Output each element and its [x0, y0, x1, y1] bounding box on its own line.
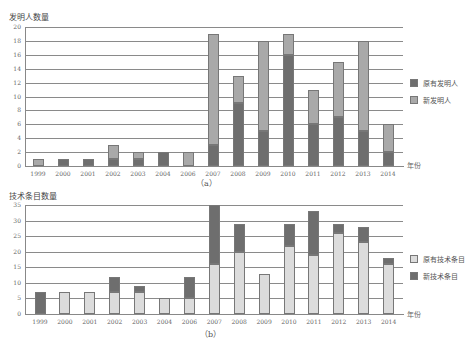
bar-segment — [383, 258, 394, 264]
x-tick-label: 2010 — [277, 318, 301, 325]
bar-2014 — [383, 205, 394, 314]
bar-segment — [184, 277, 195, 299]
bar-segment — [209, 264, 220, 314]
legend-item: 新技术条目 — [410, 271, 458, 281]
x-tick-label: 2011 — [302, 318, 326, 325]
bar-segment — [284, 246, 295, 315]
bar-2013 — [358, 205, 369, 314]
y-tick-label: 5 — [5, 294, 21, 301]
chart-b-caption: （b） — [200, 328, 221, 339]
bar-2002 — [109, 205, 120, 314]
bar-2009 — [259, 205, 270, 314]
bar-segment — [184, 298, 195, 314]
y-tick-label: 0 — [5, 310, 21, 317]
y-tick-label: 20 — [5, 248, 21, 255]
y-tick-label: 15 — [5, 263, 21, 270]
x-tick-label: 2002 — [103, 318, 127, 325]
legend-swatch-icon — [410, 272, 418, 280]
x-tick-label: 2001 — [78, 318, 102, 325]
bar-segment — [358, 227, 369, 243]
bar-2006 — [184, 205, 195, 314]
bar-2004 — [159, 205, 170, 314]
x-tick-label: 2003 — [128, 318, 152, 325]
x-tick-label: 2014 — [377, 318, 401, 325]
y-tick-label: 35 — [5, 201, 21, 208]
bar-segment — [333, 224, 344, 233]
bar-segment — [259, 274, 270, 314]
bar-segment — [159, 298, 170, 314]
bar-segment — [84, 292, 95, 314]
bar-segment — [308, 211, 319, 255]
bar-segment — [284, 224, 295, 246]
bar-2011 — [308, 205, 319, 314]
x-tick-label: 2004 — [153, 318, 177, 325]
bar-2010 — [284, 205, 295, 314]
x-tick-label: 2013 — [352, 318, 376, 325]
x-tick-label: 1999 — [28, 318, 52, 325]
bar-segment — [358, 242, 369, 314]
bar-2001 — [84, 205, 95, 314]
y-tick-label: 25 — [5, 232, 21, 239]
bar-segment — [234, 224, 245, 252]
bar-2007 — [209, 205, 220, 314]
bar-segment — [333, 233, 344, 314]
bar-segment — [308, 255, 319, 314]
bar-segment — [234, 252, 245, 314]
chart-b-title: 技术条目数量 — [9, 190, 57, 201]
legend-label: 原有技术条目 — [423, 254, 465, 264]
bar-segment — [109, 292, 120, 314]
x-tick-label: 2012 — [327, 318, 351, 325]
bar-segment — [35, 292, 46, 314]
bar-segment — [383, 264, 394, 314]
bar-segment — [59, 292, 70, 314]
bar-1999 — [35, 205, 46, 314]
bar-segment — [134, 286, 145, 292]
x-tick-label: 2000 — [53, 318, 77, 325]
bar-2012 — [333, 205, 344, 314]
x-tick-label: 2008 — [227, 318, 251, 325]
y-tick-label: 30 — [5, 217, 21, 224]
legend-item: 原有技术条目 — [410, 254, 465, 264]
bar-2003 — [134, 205, 145, 314]
legend-swatch-icon — [410, 255, 418, 263]
bar-segment — [209, 205, 220, 264]
y-tick-label: 10 — [5, 279, 21, 286]
bar-2000 — [59, 205, 70, 314]
x-tick-label: 2009 — [252, 318, 276, 325]
legend-label: 新技术条目 — [423, 271, 458, 281]
bar-segment — [134, 292, 145, 314]
x-tick-label: 2007 — [202, 318, 226, 325]
bar-segment — [109, 277, 120, 293]
chart-b-tech-items: 技术条目数量 年份 （b） 05101520253035199920002001… — [0, 0, 475, 345]
chart-b-x-axis-label: 年份 — [407, 309, 421, 319]
bar-2008 — [234, 205, 245, 314]
x-tick-label: 2006 — [177, 318, 201, 325]
